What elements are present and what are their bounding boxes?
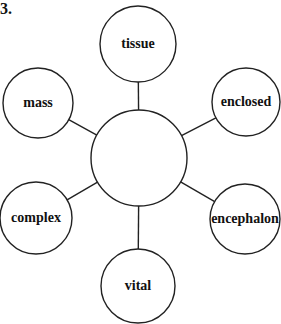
- connector-line: [181, 182, 215, 202]
- node-label-complex: complex: [11, 210, 61, 226]
- center-circle: [91, 110, 187, 206]
- node-label-enclosed: enclosed: [221, 94, 272, 110]
- node-label-encephalon: encephalon: [211, 211, 279, 227]
- connector-line: [69, 120, 97, 135]
- connector-line: [182, 118, 216, 136]
- node-label-mass: mass: [23, 95, 53, 111]
- connector-line: [67, 182, 97, 200]
- node-label-tissue: tissue: [121, 36, 154, 52]
- node-label-vital: vital: [125, 278, 151, 294]
